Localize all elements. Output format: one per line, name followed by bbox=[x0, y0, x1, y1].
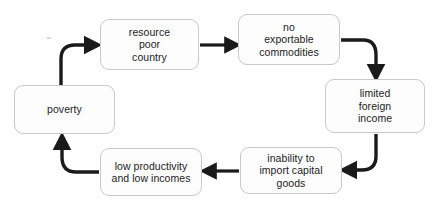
node-label: low productivity and low incomes bbox=[108, 160, 195, 185]
node-poverty[interactable]: poverty bbox=[14, 85, 115, 134]
diagram-canvas: resource poor country no exportable comm… bbox=[0, 0, 437, 205]
node-low-productivity-low-incomes[interactable]: low productivity and low incomes bbox=[100, 148, 202, 196]
node-label: inability to import capital goods bbox=[255, 152, 326, 189]
node-no-exportable-commodities[interactable]: no exportable commodities bbox=[238, 14, 340, 65]
node-label: no exportable commodities bbox=[255, 21, 322, 58]
node-limited-foreign-income[interactable]: limited foreign income bbox=[325, 79, 425, 133]
node-inability-import-capital-goods[interactable]: inability to import capital goods bbox=[240, 147, 342, 194]
edge-poverty-to-resource bbox=[61, 45, 88, 86]
node-label: resource poor country bbox=[125, 26, 174, 63]
edge-productivity-to-poverty bbox=[62, 146, 99, 172]
node-label: poverty bbox=[43, 103, 86, 115]
node-resource-poor-country[interactable]: resource poor country bbox=[100, 19, 199, 70]
edge-income-to-inability bbox=[353, 134, 376, 170]
scan-artifact-speck bbox=[47, 37, 51, 39]
edge-commodities-to-income bbox=[341, 40, 376, 68]
node-label: limited foreign income bbox=[354, 87, 396, 124]
